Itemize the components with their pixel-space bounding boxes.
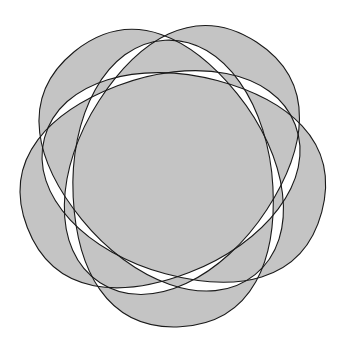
venn-diagram	[0, 0, 341, 339]
